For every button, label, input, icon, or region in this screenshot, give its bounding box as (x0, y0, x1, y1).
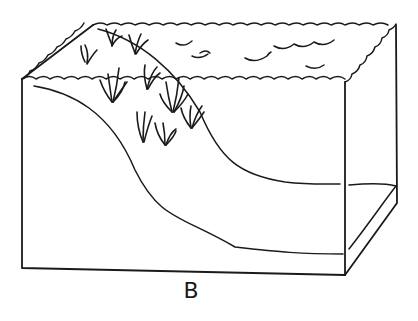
water-surface (22, 23, 396, 82)
plant (100, 68, 127, 102)
plant (155, 123, 176, 145)
aquatic-plants (81, 29, 204, 145)
plant (81, 45, 97, 64)
plant (137, 112, 152, 142)
plant (181, 106, 204, 128)
plant (160, 78, 188, 112)
block-outline (22, 25, 397, 275)
block-diagram (0, 0, 418, 321)
figure-label: B (176, 278, 206, 303)
